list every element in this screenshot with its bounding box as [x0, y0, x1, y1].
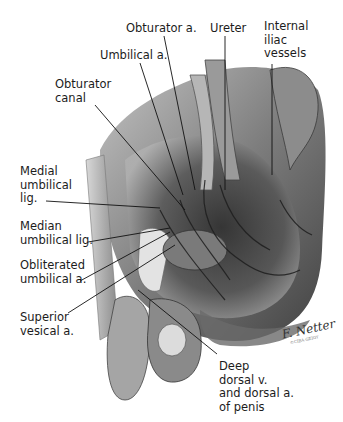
- label-deep-dorsal-v: Deep dorsal v. and dorsal a. of penis: [219, 360, 294, 414]
- label-ureter: Ureter: [210, 22, 246, 36]
- label-internal-iliac-vessels: Internal iliac vessels: [264, 20, 308, 61]
- label-umbilical-a: Umbilical a.: [100, 49, 167, 63]
- label-superior-vesical-a: Superior vesical a.: [20, 311, 74, 338]
- anatomy-figure: Obturator a. Ureter Internal iliac vesse…: [0, 0, 343, 422]
- label-obliterated-umbilical-a: Obliterated umbilical a.: [20, 259, 86, 286]
- pelvis-illustration: [0, 0, 343, 422]
- label-obturator-a: Obturator a.: [126, 22, 197, 36]
- label-medial-umbilical-lig: Medial umbilical lig.: [20, 165, 72, 206]
- label-median-umbilical-lig: Median umbilical lig.: [20, 220, 93, 247]
- label-obturator-canal: Obturator canal: [55, 78, 111, 105]
